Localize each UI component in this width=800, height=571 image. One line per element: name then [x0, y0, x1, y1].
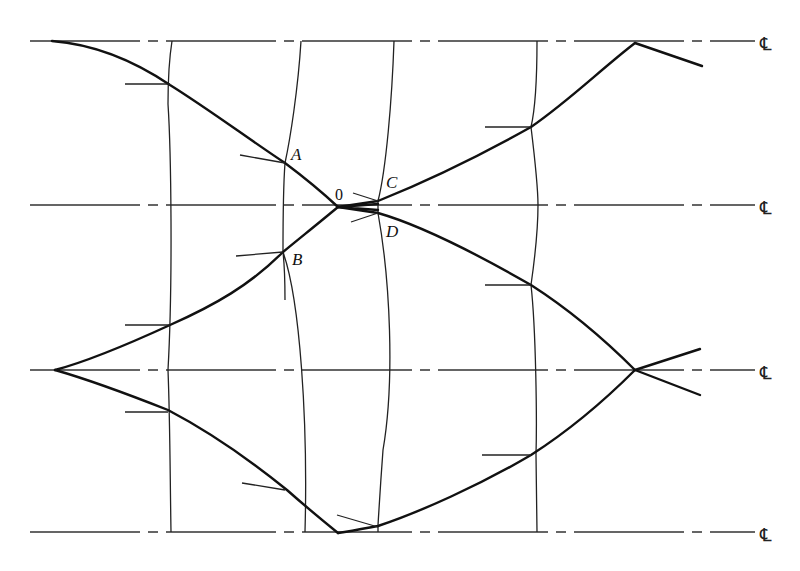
wave-mid-right	[338, 207, 635, 370]
label-origin: 0	[335, 186, 343, 203]
centerline-symbol-icon: ℄	[759, 34, 772, 54]
label-c: C	[386, 173, 398, 192]
tick	[353, 193, 378, 201]
mach-line-2	[283, 41, 306, 532]
tick	[337, 515, 378, 527]
centerline-symbols: ℄ ℄ ℄ ℄	[759, 34, 772, 545]
velocity-ticks	[125, 84, 531, 527]
centerline-symbol-icon: ℄	[759, 525, 772, 545]
wave-stub-mid-up	[635, 349, 700, 370]
mach-line-1	[168, 41, 172, 532]
tick	[351, 213, 378, 222]
centerline-symbol-icon: ℄	[759, 198, 772, 218]
label-a: A	[290, 145, 302, 164]
wave-diagram: ℄ ℄ ℄ ℄	[0, 0, 800, 571]
label-d: D	[385, 222, 399, 241]
wave-top-left	[52, 41, 338, 207]
wave-stub-mid-down	[635, 370, 700, 395]
mach-line-3	[378, 41, 394, 532]
mach-lines	[168, 41, 538, 532]
wave-bottom-left	[55, 370, 338, 533]
centerline-symbol-icon: ℄	[759, 363, 772, 383]
wave-stub-top	[635, 43, 702, 66]
label-b: B	[292, 250, 303, 269]
centerlines	[30, 41, 755, 532]
wave-top-right	[338, 43, 635, 207]
wave-lines	[52, 41, 702, 533]
tick	[236, 252, 283, 256]
wave-mid-left	[55, 207, 338, 370]
